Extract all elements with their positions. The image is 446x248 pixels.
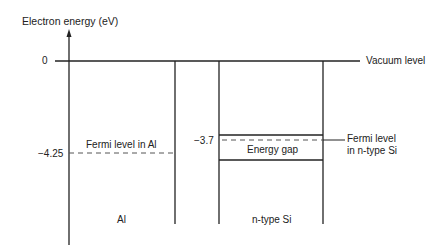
fermi-si-label-line2: in n-type Si xyxy=(347,145,397,157)
axis-arrow-icon xyxy=(67,29,72,37)
tick-al-fermi: −4.25 xyxy=(38,148,63,160)
tick-si-fermi: −3.7 xyxy=(194,135,214,147)
vacuum-level-label: Vacuum level xyxy=(366,55,425,67)
tick-zero: 0 xyxy=(42,55,48,67)
al-label: Al xyxy=(117,214,126,226)
fermi-si-label-line1: Fermi level xyxy=(347,133,396,145)
band-diagram xyxy=(0,0,446,248)
fermi-al-label: Fermi level in Al xyxy=(86,139,157,151)
y-axis-label: Electron energy (eV) xyxy=(22,15,118,27)
energy-gap-label: Energy gap xyxy=(247,144,298,156)
si-label: n-type Si xyxy=(252,214,291,226)
